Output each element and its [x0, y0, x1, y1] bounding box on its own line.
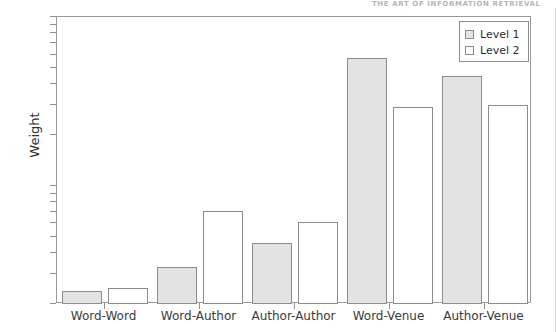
bar [393, 107, 433, 304]
legend-label-level-2: Level 2 [480, 44, 520, 57]
bar [488, 105, 528, 304]
legend-swatch-level-1-icon [465, 30, 474, 39]
y-axis-label: Weight [27, 95, 45, 175]
bar [157, 267, 197, 304]
bar [442, 76, 482, 304]
legend-item-level-1: Level 1 [465, 26, 523, 42]
x-axis-category-label: Author-Venue [443, 309, 524, 323]
bar [108, 288, 148, 304]
y-tick-mark [50, 303, 56, 304]
x-axis-category-label: Word-Word [71, 309, 137, 323]
x-axis-category-label: Word-Author [161, 309, 236, 323]
legend-swatch-level-2-icon [465, 46, 474, 55]
legend-label-level-1: Level 1 [480, 28, 520, 41]
chart-legend: Level 1 Level 2 [459, 21, 529, 62]
x-axis-category-label: Word-Venue [353, 309, 425, 323]
bar [203, 211, 243, 304]
legend-item-level-2: Level 2 [465, 42, 523, 58]
x-axis-category-label: Author-Author [251, 309, 335, 323]
bar [347, 58, 387, 304]
bar [298, 222, 338, 304]
bar [62, 291, 102, 304]
bar [252, 243, 292, 304]
bar-chart-figure: Weight 1098765432198765432 Word-WordWord… [0, 0, 556, 332]
